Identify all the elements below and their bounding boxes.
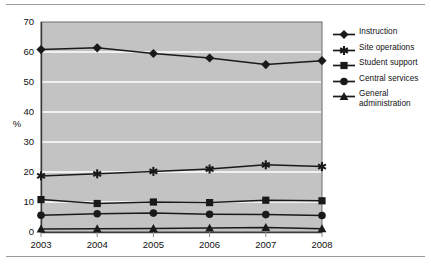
square-marker [318, 197, 325, 204]
circle-marker [150, 209, 158, 217]
square-marker [262, 197, 269, 204]
triangle-marker-icon [333, 89, 355, 102]
asterisk-marker-icon [333, 43, 355, 56]
x-axis-tick-label: 2008 [311, 239, 332, 250]
diamond-marker [339, 30, 348, 39]
square-marker [340, 62, 347, 69]
x-axis-tick-labels-group: 200320042005200620072008 [30, 239, 332, 250]
y-axis-tick-label: 10 [23, 196, 34, 207]
y-axis-tick-label: 50 [23, 76, 34, 87]
figure: 010203040506070 200320042005200620072008… [0, 0, 431, 266]
circle-marker [340, 77, 348, 85]
legend-item-instruction[interactable]: Instruction [333, 27, 429, 40]
x-axis-tick-label: 2004 [87, 239, 108, 250]
x-axis-tick-label: 2006 [199, 239, 220, 250]
y-axis-tick-label: 40 [23, 106, 34, 117]
circle-marker [318, 212, 326, 220]
y-axis-tick-label: 60 [23, 46, 34, 57]
square-marker-icon [333, 58, 355, 71]
y-axis-tick-labels-group: 010203040506070 [23, 16, 34, 237]
diamond-marker-icon [333, 27, 355, 40]
square-marker [37, 196, 44, 203]
legend-label: Site operations [359, 43, 414, 53]
chart-legend: Instruction Site operations Student supp… [333, 27, 429, 112]
x-axis-tick-label: 2005 [143, 239, 164, 250]
y-axis-label: % [13, 118, 22, 129]
legend-label: General administration [359, 89, 429, 109]
y-axis-tick-label: 30 [23, 136, 34, 147]
x-axis-tick-label: 2003 [30, 239, 51, 250]
circle-marker [93, 210, 101, 218]
legend-label: Central services [359, 74, 419, 84]
circle-marker-icon [333, 74, 355, 87]
square-marker [94, 200, 101, 207]
circle-marker [37, 211, 45, 219]
y-axis-tick-label: 0 [29, 226, 34, 237]
legend-label: Instruction [359, 27, 397, 37]
y-axis-tick-label: 20 [23, 166, 34, 177]
square-marker [206, 199, 213, 206]
legend-item-site-operations[interactable]: Site operations [333, 43, 429, 56]
y-axis-tick-label: 70 [23, 16, 34, 27]
circle-marker [262, 211, 270, 219]
x-axis-tick-label: 2007 [255, 239, 276, 250]
legend-item-student-support[interactable]: Student support [333, 58, 429, 71]
circle-marker [206, 211, 214, 219]
legend-label: Student support [359, 58, 418, 68]
legend-item-central-services[interactable]: Central services [333, 74, 429, 87]
legend-item-general-administration[interactable]: General administration [333, 89, 429, 109]
square-marker [150, 198, 157, 205]
